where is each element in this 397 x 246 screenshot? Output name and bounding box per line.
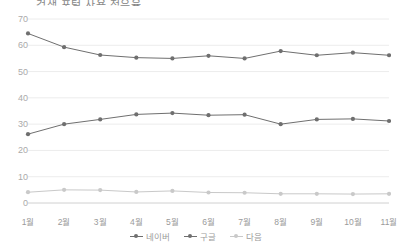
data-point[interactable] — [387, 53, 391, 57]
data-point[interactable] — [243, 56, 247, 60]
data-point[interactable] — [98, 188, 102, 192]
series-2 — [26, 111, 391, 136]
data-point[interactable] — [351, 51, 355, 55]
data-point[interactable] — [206, 113, 210, 117]
y-tick-label: 50 — [2, 67, 28, 77]
data-point[interactable] — [62, 188, 66, 192]
data-point[interactable] — [62, 45, 66, 49]
series-1 — [26, 31, 391, 60]
data-point[interactable] — [243, 113, 247, 117]
y-tick-label: 30 — [2, 119, 28, 129]
legend-label: 다음 — [246, 230, 262, 242]
data-point[interactable] — [315, 192, 319, 196]
data-point[interactable] — [98, 53, 102, 57]
data-point[interactable] — [279, 192, 283, 196]
data-point[interactable] — [170, 111, 174, 115]
x-tick-label: 1월 — [22, 215, 35, 227]
data-point[interactable] — [387, 119, 391, 123]
x-tick-label: 8월 — [274, 215, 287, 227]
data-point[interactable] — [170, 189, 174, 193]
data-point[interactable] — [134, 56, 138, 60]
data-point[interactable] — [315, 53, 319, 57]
y-axis: 010203040506070 — [0, 0, 28, 246]
legend-marker-icon — [130, 236, 143, 237]
data-point[interactable] — [134, 112, 138, 116]
x-tick-label: 6월 — [202, 215, 215, 227]
data-point[interactable] — [243, 191, 247, 195]
legend-marker-icon — [184, 236, 197, 237]
data-point[interactable] — [315, 117, 319, 121]
x-tick-label: 10월 — [344, 215, 361, 227]
data-point[interactable] — [206, 190, 210, 194]
y-tick-label: 70 — [2, 14, 28, 24]
data-point[interactable] — [279, 122, 283, 126]
data-point[interactable] — [279, 49, 283, 53]
data-point[interactable] — [387, 192, 391, 196]
y-tick-label: 60 — [2, 40, 28, 50]
data-point[interactable] — [134, 190, 138, 194]
data-point[interactable] — [170, 56, 174, 60]
chart-legend: 네이버구글다음 — [0, 230, 391, 242]
legend-item-2[interactable]: 구글 — [184, 230, 216, 242]
series-3 — [26, 188, 391, 196]
x-tick-label: 5월 — [166, 215, 179, 227]
y-tick-label: 0 — [2, 198, 28, 208]
x-tick-label: 9월 — [310, 215, 323, 227]
x-tick-label: 4월 — [130, 215, 143, 227]
data-point[interactable] — [351, 117, 355, 121]
legend-marker-icon — [230, 236, 243, 237]
data-point[interactable] — [351, 192, 355, 196]
legend-item-1[interactable]: 네이버 — [130, 230, 170, 242]
data-point[interactable] — [62, 122, 66, 126]
legend-label: 네이버 — [146, 230, 170, 242]
legend-item-3[interactable]: 다음 — [230, 230, 262, 242]
legend-label: 구글 — [200, 230, 216, 242]
y-tick-label: 20 — [2, 145, 28, 155]
data-point[interactable] — [98, 117, 102, 121]
data-point[interactable] — [206, 54, 210, 58]
y-tick-label: 10 — [2, 172, 28, 182]
x-tick-label: 2월 — [58, 215, 71, 227]
x-tick-label: 11월 — [381, 215, 397, 227]
x-tick-label: 3월 — [94, 215, 107, 227]
y-tick-label: 40 — [2, 93, 28, 103]
x-tick-label: 7월 — [238, 215, 251, 227]
